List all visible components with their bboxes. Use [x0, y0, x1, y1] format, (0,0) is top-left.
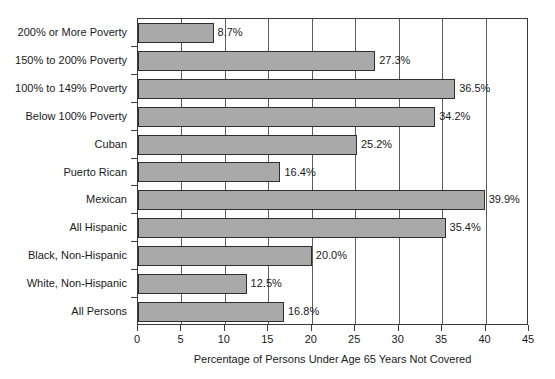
x-axis-tick [224, 325, 225, 331]
bar-value-label: 27.3% [379, 55, 410, 66]
x-axis-tick-label: 25 [334, 334, 374, 345]
bar-value-label: 35.4% [450, 222, 481, 233]
y-axis-category-label: White, Non-Hispanic [27, 278, 127, 289]
bar [138, 51, 375, 71]
bar-row [138, 19, 527, 47]
bar-value-label: 25.2% [361, 139, 392, 150]
x-axis-tick-label: 40 [465, 334, 505, 345]
bar [138, 135, 357, 155]
bar [138, 302, 284, 322]
plot-area [137, 18, 528, 325]
x-axis-tick [354, 325, 355, 331]
x-axis-tick [528, 325, 529, 331]
bar-value-label: 39.9% [489, 194, 520, 205]
x-axis-tick [180, 325, 181, 331]
bar [138, 190, 485, 210]
y-axis-category-label: 200% or More Poverty [18, 27, 127, 38]
bar-value-label: 12.5% [251, 278, 282, 289]
x-axis-tick [398, 325, 399, 331]
bar-value-label: 20.0% [316, 250, 347, 261]
x-axis-tick-label: 15 [247, 334, 287, 345]
x-axis-tick-label: 10 [204, 334, 244, 345]
x-axis-title: Percentage of Persons Under Age 65 Years… [137, 353, 528, 365]
bar-row [138, 270, 527, 298]
x-axis-tick-label: 35 [421, 334, 461, 345]
x-axis-tick [311, 325, 312, 331]
y-axis-category-label: 150% to 200% Poverty [15, 55, 127, 66]
x-axis-tick-label: 20 [291, 334, 331, 345]
y-axis-category-label: Cuban [95, 139, 127, 150]
y-axis-category-label: All Persons [71, 306, 127, 317]
bar [138, 79, 455, 99]
bar-row [138, 47, 527, 75]
x-axis-tick-label: 45 [508, 334, 548, 345]
bar-value-label: 36.5% [459, 83, 490, 94]
bar [138, 274, 247, 294]
bar-value-label: 16.8% [288, 306, 319, 317]
y-axis-category-label: 100% to 149% Poverty [15, 83, 127, 94]
y-axis-category-label: Mexican [86, 194, 127, 205]
bar-value-label: 16.4% [284, 167, 315, 178]
bar-value-label: 34.2% [439, 111, 470, 122]
bar-chart: 200% or More Poverty150% to 200% Poverty… [0, 0, 555, 379]
bar [138, 218, 446, 238]
bar-value-label: 8.7% [218, 27, 243, 38]
bar [138, 107, 435, 127]
bar-row [138, 159, 527, 187]
y-axis-category-labels: 200% or More Poverty150% to 200% Poverty… [0, 18, 133, 325]
bar [138, 246, 312, 266]
y-axis-category-label: All Hispanic [70, 222, 127, 233]
y-axis-category-label: Black, Non-Hispanic [28, 250, 127, 261]
bar [138, 23, 214, 43]
bar-row [138, 298, 527, 326]
x-axis-tick-label: 30 [378, 334, 418, 345]
y-axis-category-label: Puerto Rican [63, 167, 127, 178]
x-axis-tick [137, 325, 138, 331]
x-axis-tick [485, 325, 486, 331]
bar-row [138, 186, 527, 214]
x-axis-tick [441, 325, 442, 331]
x-axis-tick-label: 5 [160, 334, 200, 345]
x-axis-tick-label: 0 [117, 334, 157, 345]
bar-row [138, 131, 527, 159]
y-axis-category-label: Below 100% Poverty [26, 111, 128, 122]
x-axis-tick [267, 325, 268, 331]
bar [138, 162, 280, 182]
